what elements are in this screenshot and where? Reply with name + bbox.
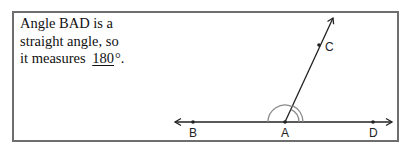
points xyxy=(191,43,375,124)
label-a: A xyxy=(281,126,289,140)
label-d: D xyxy=(369,126,378,140)
label-b: B xyxy=(189,126,197,140)
point-d xyxy=(371,120,375,124)
point-b xyxy=(191,120,195,124)
label-c: C xyxy=(325,40,334,54)
ray-ac xyxy=(285,18,334,122)
angle-diagram: B A D C xyxy=(0,0,410,152)
point-c xyxy=(317,43,321,47)
point-a xyxy=(283,120,287,124)
